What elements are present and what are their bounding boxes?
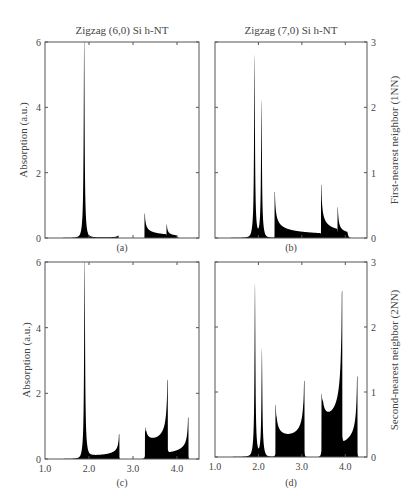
y-tick-label: 3	[371, 37, 376, 48]
y-tick-label: 4	[36, 102, 41, 113]
caption-a: (a)	[116, 242, 127, 254]
x-tick-label: 3.0	[296, 461, 309, 472]
ylabel-absorption-bottom: Absorption (a.u.)	[20, 322, 33, 398]
x-tick-label: 1.0	[39, 463, 52, 474]
y-tick-label: 4	[36, 323, 41, 334]
x-tick-label: 4.0	[339, 461, 352, 472]
caption-d: (d)	[285, 477, 297, 489]
ylabel-2nn: Second-nearest neighbor (2NN)	[388, 289, 401, 430]
spectrum-area	[215, 54, 367, 238]
y-tick-label: 2	[371, 322, 376, 333]
spectrum-area	[45, 42, 199, 238]
y-tick-label: 6	[36, 37, 41, 48]
y-tick-label: 1	[371, 387, 376, 398]
y-tick-label: 2	[36, 168, 41, 179]
y-tick-label: 2	[36, 388, 41, 399]
panel-b: 0123	[215, 37, 376, 244]
spectrum-area	[215, 282, 367, 457]
y-tick-label: 6	[36, 257, 41, 268]
panel-a: 0246	[36, 37, 199, 244]
ylabel-1nn: First-nearest neighbor (1NN)	[388, 76, 401, 205]
x-tick-label: 4.0	[171, 463, 184, 474]
figure: Zigzag (6,0) Si h-NT Zigzag (7,0) Si h-N…	[0, 0, 419, 501]
x-tick-label: 3.0	[127, 463, 140, 474]
plot-frame	[45, 262, 199, 459]
y-tick-label: 0	[371, 233, 376, 244]
plot-frame	[45, 42, 199, 238]
y-tick-label: 3	[371, 257, 376, 268]
x-tick-label: 1.0	[209, 461, 222, 472]
spectrum-area	[45, 262, 199, 459]
y-tick-label: 0	[371, 452, 376, 463]
y-tick-label: 2	[371, 102, 376, 113]
y-tick-label: 0	[36, 233, 41, 244]
title-panel-a: Zigzag (6,0) Si h-NT	[76, 24, 169, 37]
x-tick-label: 2.0	[83, 463, 96, 474]
panel-d: 01231.02.03.04.0	[209, 257, 376, 472]
plot-frame	[215, 262, 367, 457]
y-tick-label: 1	[371, 168, 376, 179]
title-panel-b: Zigzag (7,0) Si h-NT	[245, 24, 338, 37]
plot-frame	[215, 42, 367, 238]
caption-c: (c)	[116, 477, 127, 489]
x-tick-label: 2.0	[252, 461, 265, 472]
panel-c: 02461.02.03.04.0	[36, 257, 199, 474]
caption-b: (b)	[285, 242, 297, 254]
ylabel-absorption-top: Absorption (a.u.)	[17, 102, 30, 178]
